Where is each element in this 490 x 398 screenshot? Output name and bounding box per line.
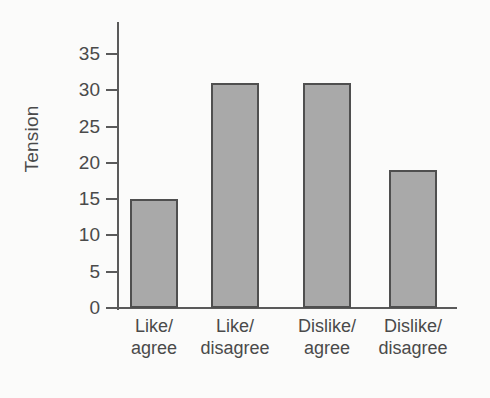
bar	[389, 170, 437, 308]
category-label: Dislike/disagree	[353, 316, 473, 360]
y-tick-mark	[106, 234, 118, 236]
category-label-line: Dislike/	[353, 316, 473, 338]
category-label-line: disagree	[353, 338, 473, 360]
plot-area: 05101520253035 Like/agreeLike/disagreeDi…	[0, 0, 490, 398]
bar	[130, 199, 178, 308]
y-tick-mark	[106, 126, 118, 128]
y-tick-label: 15	[56, 189, 100, 208]
y-tick-mark	[106, 271, 118, 273]
y-tick-mark	[106, 53, 118, 55]
y-tick-label: 25	[56, 117, 100, 136]
y-tick-label: 35	[56, 44, 100, 63]
y-tick-label: 10	[56, 225, 100, 244]
y-tick-mark	[106, 89, 118, 91]
y-tick-label: 20	[56, 153, 100, 172]
bar-chart-figure: Tension 05101520253035 Like/agreeLike/di…	[0, 0, 490, 398]
y-tick-label: 0	[56, 298, 100, 317]
bar	[211, 83, 259, 308]
y-tick-label: 30	[56, 80, 100, 99]
y-tick-label: 5	[56, 262, 100, 281]
bar	[303, 83, 351, 308]
y-axis-line	[117, 22, 119, 310]
y-tick-mark	[106, 162, 118, 164]
y-tick-mark	[106, 198, 118, 200]
y-tick-mark	[106, 307, 118, 309]
